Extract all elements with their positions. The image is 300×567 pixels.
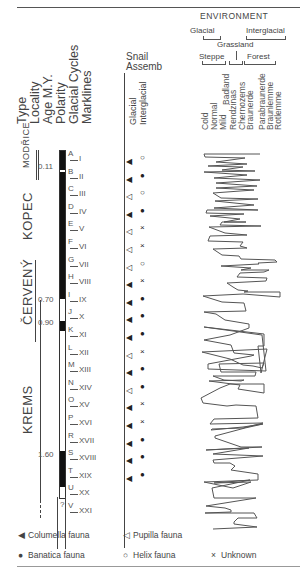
environment-curve [0,0,300,567]
legend-unknown-label: Unknown [221,550,256,560]
legend-columella: ◀Columella fauna [18,530,89,540]
legend-helix: ○Helix fauna [123,550,176,560]
pupilla-icon: ◁ [123,530,133,540]
legend-banatica-label: Banatica fauna [28,550,85,560]
legend-pupilla-label: Pupilla fauna [133,530,182,540]
legend-columella-label: Columella fauna [28,530,89,540]
banatica-icon: ● [18,550,28,560]
columella-icon: ◀ [18,530,28,540]
unknown-icon: × [211,550,221,560]
legend-banatica: ●Banatica fauna [18,550,85,560]
helix-icon: ○ [123,550,133,560]
legend-pupilla: ◁Pupilla fauna [123,530,182,540]
legend-helix-label: Helix fauna [133,550,176,560]
legend-unknown: ×Unknown [211,550,256,560]
